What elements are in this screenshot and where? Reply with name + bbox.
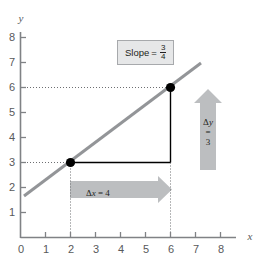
x-tick-label-7: 7 (186, 243, 206, 255)
y-axis-label: y (14, 12, 28, 24)
y-tick-label-4: 4 (2, 131, 22, 143)
x-tick-label-2: 2 (61, 243, 81, 255)
y-tick-label-1: 1 (2, 206, 22, 218)
y-tick-label-7: 7 (2, 56, 22, 68)
delta-y-symbol-row: Δy (197, 117, 219, 127)
data-point-6-6 (166, 83, 175, 92)
x-tick-label-0: 0 (11, 243, 31, 255)
slope-line (24, 63, 201, 196)
x-tick-label-6: 6 (161, 243, 181, 255)
slope-label-box: Slope = 3 4 (117, 40, 174, 65)
x-tick-label-5: 5 (136, 243, 156, 255)
slope-label-text: Slope (125, 48, 149, 58)
slope-graph-figure: 8 7 6 5 4 3 2 1 0 1 2 3 4 5 6 7 8 y x Sl… (0, 0, 266, 278)
y-tick-label-3: 3 (2, 156, 22, 168)
x-tick-label-1: 1 (36, 243, 56, 255)
x-tick-label-8: 8 (211, 243, 231, 255)
delta-y-value: 3 (197, 137, 219, 147)
delta-x-label: Δx = 4 (86, 188, 110, 198)
delta-x-value: = 4 (96, 188, 110, 198)
delta-y-equals: = (197, 127, 219, 137)
x-tick-label-3: 3 (86, 243, 106, 255)
delta-y-variable: y (209, 117, 213, 127)
x-tick-label-4: 4 (111, 243, 131, 255)
x-axis-ticks (46, 232, 221, 238)
y-tick-label-6: 6 (2, 81, 22, 93)
y-tick-label-8: 8 (2, 31, 22, 43)
delta-y-label: Δy = 3 (197, 117, 219, 147)
x-axis-label: x (243, 230, 257, 242)
data-point-2-3 (66, 158, 75, 167)
slope-equals-sign: = (151, 48, 157, 58)
slope-denominator: 4 (160, 53, 166, 61)
y-tick-label-5: 5 (2, 106, 22, 118)
y-tick-label-2: 2 (2, 181, 22, 193)
slope-fraction: 3 4 (160, 44, 166, 61)
